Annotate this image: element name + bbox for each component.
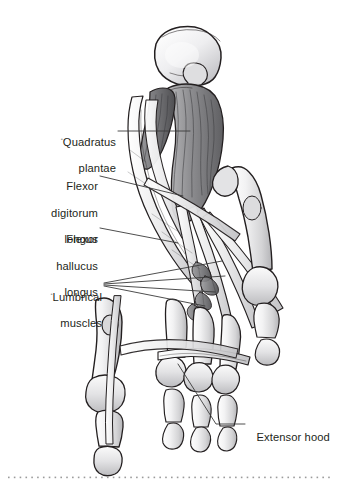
label-lumbrical-muscles: •Lumbrical muscles: [0, 275, 102, 331]
label-quadratus-plantae-line1: Quadratus: [63, 136, 116, 148]
label-lumbrical-muscles-line2: muscles: [60, 317, 102, 329]
label-flexor-digitorum-longus-line1: Flexor: [66, 180, 98, 192]
label-lumbrical-muscles-line1: Lumbrical: [53, 291, 102, 303]
label-extensor-hood: Extensor hood: [250, 418, 342, 444]
label-flexor-digitorum-longus-line2: digitorum: [51, 207, 98, 219]
label-flexor-hallucis-longus-line2: hallucus: [56, 260, 98, 272]
calcaneus: [155, 26, 222, 86]
label-extensor-hood-line1: Extensor hood: [256, 431, 329, 443]
label-flexor-hallucis-longus-line1: Flexor: [66, 233, 98, 245]
foot-skeleton-and-muscles: [86, 26, 283, 475]
footer-dotted-rule: [8, 476, 334, 479]
